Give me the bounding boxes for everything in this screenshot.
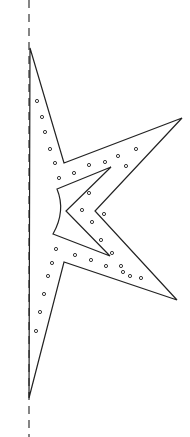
star-cutout-diagram [0, 0, 190, 437]
punch-hole [104, 264, 107, 267]
punch-hole [99, 238, 102, 241]
punch-hole [87, 191, 90, 194]
punch-hole [35, 99, 38, 102]
punch-hole [103, 160, 106, 163]
punch-hole [40, 115, 43, 118]
punch-hole [134, 147, 137, 150]
punch-hole [121, 270, 124, 273]
punch-hole [139, 276, 142, 279]
punch-hole [110, 251, 113, 254]
star-half-outline [29, 48, 182, 398]
punch-hole [119, 264, 122, 267]
punch-hole [116, 154, 119, 157]
punch-hole [80, 208, 83, 211]
punch-hole [89, 258, 92, 261]
punch-hole [90, 220, 93, 223]
punch-hole [124, 164, 127, 167]
punch-hole [48, 147, 51, 150]
punch-hole [73, 253, 76, 256]
punch-hole [87, 163, 90, 166]
punch-hole [50, 261, 53, 264]
punch-hole [54, 247, 57, 250]
punch-hole [72, 171, 75, 174]
punch-hole [42, 292, 45, 295]
punch-hole [57, 176, 60, 179]
punch-hole [128, 274, 131, 277]
punch-hole [46, 274, 49, 277]
punch-hole [34, 329, 37, 332]
punch-holes [34, 99, 142, 332]
punch-hole [38, 310, 41, 313]
punch-hole [43, 130, 46, 133]
punch-hole [102, 212, 105, 215]
punch-hole [53, 161, 56, 164]
